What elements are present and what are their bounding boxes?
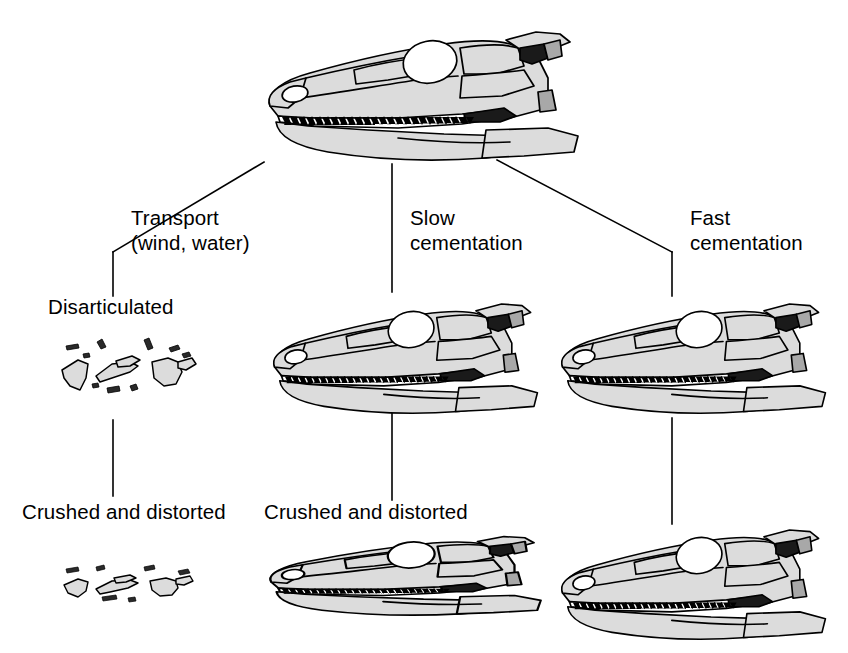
bone-fragments-flattened-illustration — [58, 563, 228, 609]
sliver-f2 — [96, 565, 105, 571]
quadrate — [506, 572, 522, 585]
sliver-f4 — [102, 595, 117, 601]
quadratojugal-shade — [511, 541, 527, 553]
quadratojugal-shade — [508, 311, 523, 328]
caption-slow-process: Slow cementation — [410, 205, 523, 255]
fragment-large-1 — [62, 360, 88, 390]
sliver-f3 — [144, 565, 155, 571]
caption-disarticulated: Disarticulated — [48, 294, 174, 319]
postorbital — [438, 545, 494, 563]
sliver-7 — [107, 386, 120, 393]
sliver-f5 — [128, 597, 136, 602]
connector-to-fast — [497, 160, 672, 252]
quadratojugal-shade — [796, 311, 811, 328]
fragment-mid-2 — [178, 358, 196, 370]
quadrate — [503, 353, 518, 372]
caption-crushed-slow: Crushed and distorted — [264, 499, 468, 524]
fragment-flat-4 — [150, 578, 178, 596]
sliver-6 — [92, 383, 99, 388]
skull-illustration — [248, 18, 600, 168]
sliver-f1 — [66, 567, 79, 573]
sliver-8 — [130, 384, 138, 391]
sliver-3 — [83, 353, 90, 358]
caption-crushed-transport: Crushed and distorted — [22, 499, 226, 524]
quadrate — [791, 579, 806, 598]
fragment-flat-1 — [64, 579, 88, 597]
caption-fast-process: Fast cementation — [690, 205, 803, 255]
sliver-9 — [182, 352, 191, 358]
sliver-f6 — [178, 569, 190, 575]
sliver-4 — [144, 338, 153, 350]
skull-illustration — [540, 518, 848, 646]
skull-fast-stage2 — [540, 518, 848, 646]
skull-slow-stage1 — [252, 292, 560, 420]
postorbital — [437, 315, 492, 340]
postorbital — [725, 541, 780, 566]
quadratojugal-shade — [544, 40, 562, 60]
fragments-crushed — [58, 563, 228, 609]
quadrate — [791, 353, 806, 372]
bone-fragments-illustration — [56, 332, 246, 404]
quadratojugal-shade — [796, 537, 811, 554]
skull-illustration-crushed — [252, 528, 560, 620]
sliver-1 — [66, 344, 79, 350]
fragments-disarticulated — [56, 332, 246, 404]
postorbital — [725, 315, 780, 340]
fragment-flat-5 — [176, 576, 193, 585]
skull-slow-stage2-crushed — [252, 528, 560, 620]
skull-fast-stage1 — [540, 292, 848, 420]
sliver-2 — [97, 339, 106, 349]
caption-transport-process: Transport (wind, water) — [131, 205, 250, 255]
source-skull — [248, 18, 600, 168]
taphonomy-figure: Transport (wind, water) Slow cementation… — [0, 0, 848, 653]
skull-illustration — [540, 292, 848, 420]
temporal-fenestra — [520, 44, 548, 64]
skull-illustration — [252, 292, 560, 420]
quadrate — [538, 90, 556, 112]
sliver-5 — [169, 345, 180, 352]
